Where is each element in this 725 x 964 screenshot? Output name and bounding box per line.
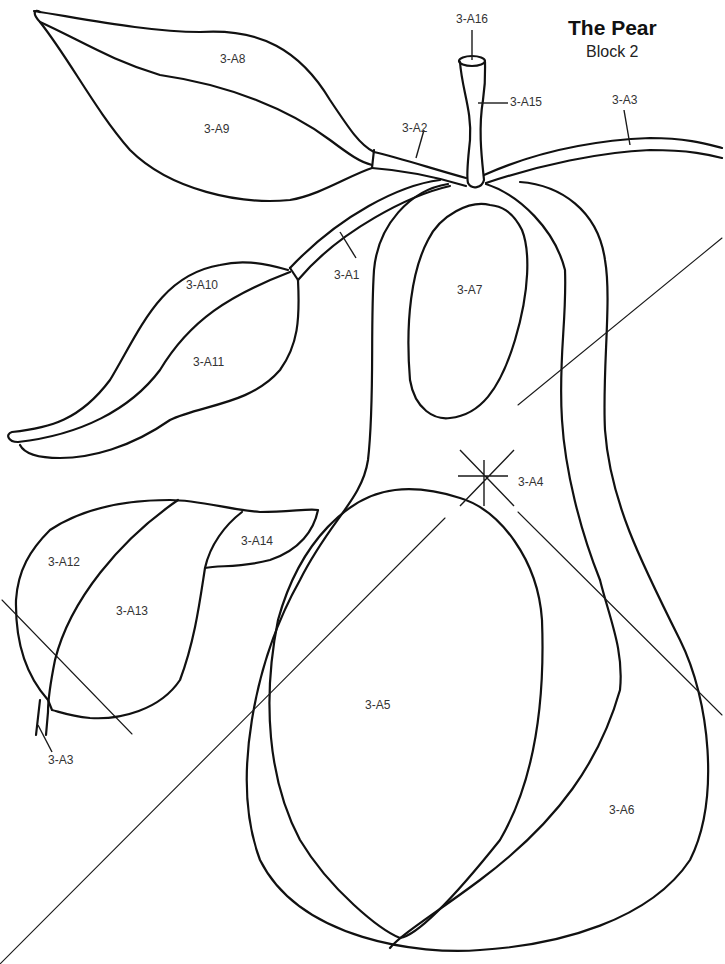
branch-3-A2 bbox=[372, 152, 466, 186]
pattern-drawing bbox=[0, 0, 725, 964]
page-title: The Pear bbox=[568, 16, 657, 40]
pear-stem bbox=[459, 56, 485, 187]
middle-leaf bbox=[8, 262, 298, 458]
stem-3-A3-right bbox=[484, 138, 722, 183]
guide-lines bbox=[0, 238, 722, 964]
pear-body bbox=[247, 182, 708, 951]
label-3-A16: 3-A16 bbox=[456, 12, 488, 26]
label-3-A9: 3-A9 bbox=[204, 122, 229, 136]
label-3-A5: 3-A5 bbox=[365, 698, 390, 712]
label-3-A11: 3-A11 bbox=[193, 355, 224, 369]
registration-star-icon bbox=[458, 450, 514, 506]
piece-3-A7 bbox=[408, 204, 527, 418]
page-subtitle: Block 2 bbox=[586, 43, 638, 61]
label-3-A3-right: 3-A3 bbox=[612, 93, 637, 107]
label-3-A3-left: 3-A3 bbox=[48, 753, 73, 767]
label-3-A2: 3-A2 bbox=[402, 121, 427, 135]
label-3-A15: 3-A15 bbox=[510, 95, 542, 109]
top-leaf bbox=[34, 11, 374, 201]
leader-lines bbox=[38, 30, 630, 752]
label-3-A14: 3-A14 bbox=[241, 534, 273, 548]
label-3-A1: 3-A1 bbox=[334, 268, 359, 282]
branch-3-A1 bbox=[290, 180, 450, 280]
label-3-A8: 3-A8 bbox=[220, 52, 245, 66]
label-3-A4: 3-A4 bbox=[518, 475, 543, 489]
label-3-A13: 3-A13 bbox=[116, 604, 148, 618]
label-3-A7: 3-A7 bbox=[457, 283, 482, 297]
label-3-A6: 3-A6 bbox=[609, 803, 634, 817]
label-3-A10: 3-A10 bbox=[186, 278, 218, 292]
label-3-A12: 3-A12 bbox=[48, 555, 80, 569]
